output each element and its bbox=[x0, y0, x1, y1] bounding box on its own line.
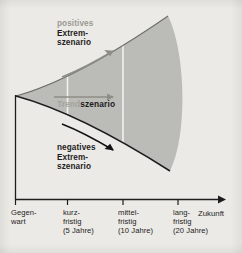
negative-scenario-line-2: Extrem- bbox=[57, 153, 88, 162]
x-axis-arrowhead bbox=[218, 196, 226, 204]
axis-tick-gegenwart-line-2: wart bbox=[11, 218, 37, 227]
trend-scenario-faded-word: Trend bbox=[57, 99, 80, 109]
positive-scenario-faded-word: positives bbox=[57, 19, 93, 28]
positive-scenario-line-1: Extrem- bbox=[57, 29, 88, 38]
scenario-cone-area bbox=[16, 16, 183, 171]
x-axis-end-label: Zukunft bbox=[198, 209, 224, 218]
axis-tick-label-kurzfristig: kurz- fristig (5 Jahre) bbox=[63, 209, 94, 235]
axis-tick-mittelfristig-years: (10 Jahre) bbox=[118, 227, 153, 236]
trend-scenario-bold-word: szenario bbox=[80, 99, 115, 109]
negative-scenario-label: negatives Extrem- szenario bbox=[57, 143, 96, 172]
axis-tick-label-gegenwart: Gegen- wart bbox=[11, 209, 37, 227]
trend-scenario-label: Trendszenario bbox=[57, 100, 115, 110]
x-axis-ticks bbox=[16, 200, 179, 206]
negative-scenario-line-3: szenario bbox=[57, 162, 91, 171]
axis-tick-kurzfristig-years: (5 Jahre) bbox=[63, 227, 94, 236]
positive-scenario-label: positives Extrem- szenario bbox=[57, 19, 93, 48]
positive-scenario-line-2: szenario bbox=[57, 38, 91, 47]
negative-scenario-line-1: negatives bbox=[57, 143, 96, 152]
scenario-funnel-figure: positives Extrem- szenario Trendszenario… bbox=[0, 0, 242, 253]
axis-tick-label-mittelfristig: mittel- fristig (10 Jahre) bbox=[118, 209, 153, 235]
axis-tick-langfristig-years: (20 Jahre) bbox=[173, 227, 208, 236]
